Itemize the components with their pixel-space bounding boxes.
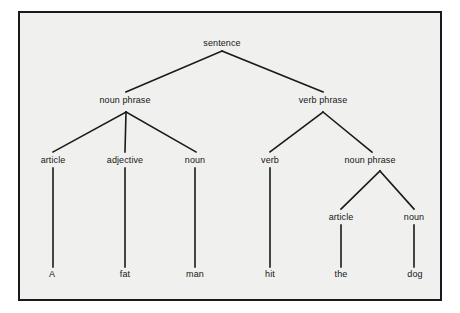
leaf-word-fat: fat: [120, 269, 130, 280]
edge-vp-np2: [323, 112, 372, 152]
node-verb: verb: [261, 155, 279, 166]
edge-vp-verb: [270, 112, 323, 152]
syntax-tree-diagram: sentence noun phrase verb phrase article…: [0, 0, 460, 313]
node-noun-phrase-1: noun phrase: [99, 95, 150, 106]
leaf-word-man: man: [186, 269, 204, 280]
edge-np2-article: [341, 171, 380, 209]
edge-np2-noun: [380, 171, 414, 209]
node-article-2: article: [329, 212, 354, 223]
edge-sentence-verb-phrase: [222, 51, 323, 92]
node-article-1: article: [41, 155, 66, 166]
node-noun-1: noun: [185, 155, 205, 166]
leaf-word-the: the: [335, 269, 348, 280]
edge-np1-article: [53, 112, 126, 152]
edge-np1-noun: [126, 112, 196, 152]
leaf-word-a: A: [49, 269, 55, 280]
leaf-word-dog: dog: [407, 269, 422, 280]
node-noun-phrase-2: noun phrase: [344, 155, 395, 166]
node-verb-phrase: verb phrase: [299, 95, 348, 106]
node-adjective: adjective: [107, 155, 143, 166]
edge-sentence-noun-phrase: [126, 51, 222, 92]
node-sentence: sentence: [203, 38, 240, 49]
node-noun-2: noun: [404, 212, 424, 223]
edge-np1-adjective: [125, 112, 126, 152]
leaf-word-hit: hit: [265, 269, 275, 280]
